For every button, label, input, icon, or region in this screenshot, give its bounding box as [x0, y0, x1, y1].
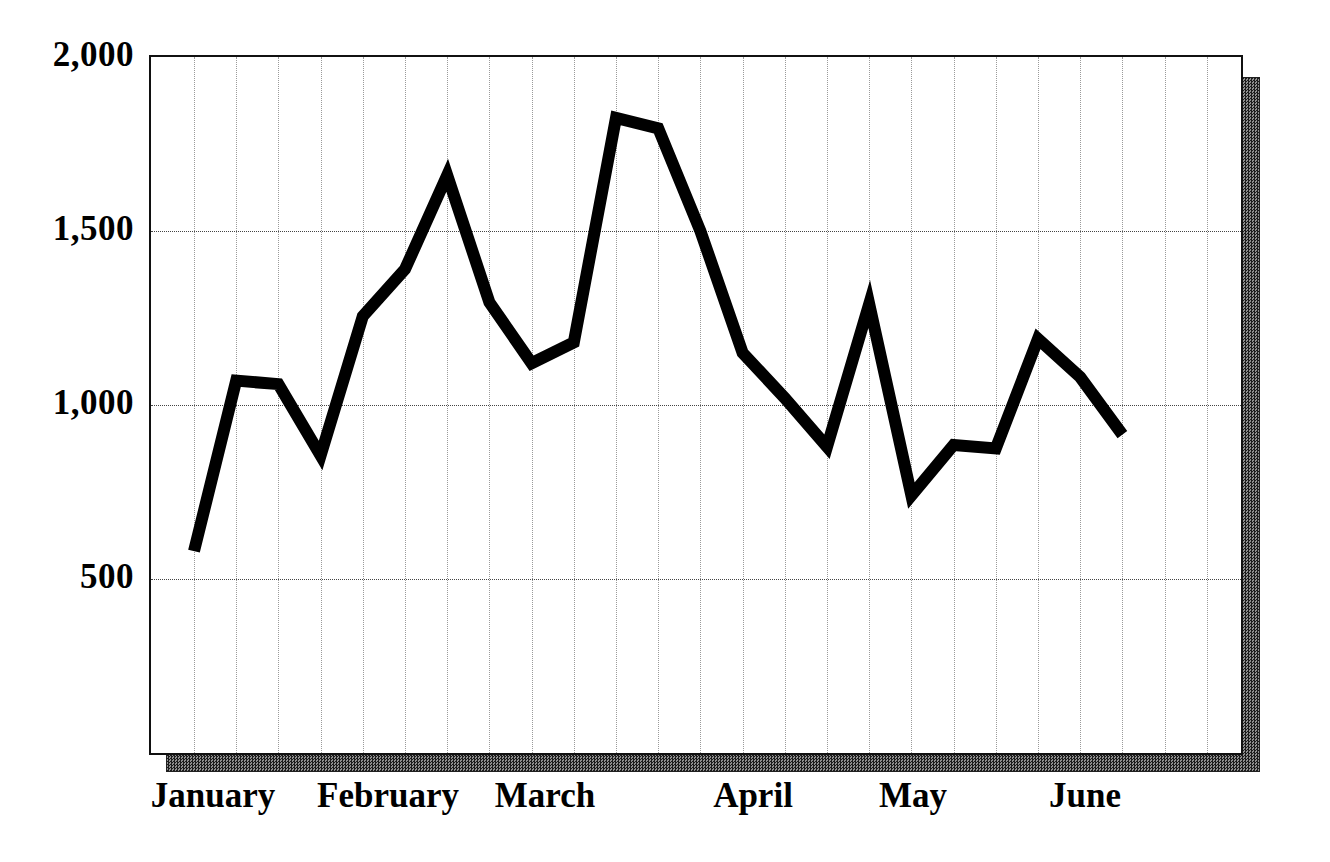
y-axis-tick-label: 1,000 [53, 385, 134, 420]
y-axis-tick-label: 500 [80, 559, 134, 594]
x-axis-tick-label: March [495, 778, 595, 813]
y-axis-tick-label: 1,500 [53, 211, 134, 246]
plot-inner [151, 57, 1241, 753]
series-line [194, 118, 1122, 551]
x-axis-tick-label: June [1049, 778, 1121, 813]
chart-page: 2,0001,5001,000500 JanuaryFebruaryMarchA… [0, 0, 1330, 862]
series-line-chart [151, 57, 1241, 753]
x-axis-tick-label: May [879, 778, 947, 813]
plot-area [149, 55, 1243, 755]
x-axis-tick-label: April [713, 778, 793, 813]
x-axis-tick-label: January [151, 778, 275, 813]
y-axis-tick-label: 2,000 [53, 37, 134, 72]
x-axis-tick-label: February [317, 778, 459, 813]
